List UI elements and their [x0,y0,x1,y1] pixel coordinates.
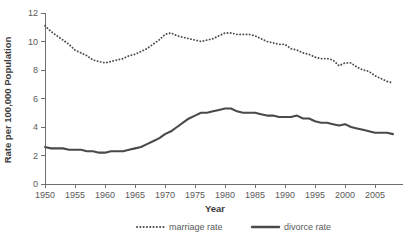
data-series-group [45,26,393,153]
y-tick-label: 2 [33,151,38,161]
x-tick-label: 1970 [155,190,175,200]
x-tick-label: 1965 [125,190,145,200]
x-tick-label: 1995 [305,190,325,200]
x-tick-label: 1985 [245,190,265,200]
y-axis-title: Rate per 100,000 Population [2,36,13,163]
x-tick-label: 1990 [275,190,295,200]
y-tick-label: 0 [33,179,38,189]
y-tick-label: 8 [33,65,38,75]
y-axis: 024681012 [28,8,45,189]
line-chart: 024681012 195019551960196519701975198019… [0,0,415,241]
series-line-marriage-rate [45,26,393,83]
x-tick-label: 1980 [215,190,235,200]
x-tick-label: 1955 [65,190,85,200]
y-tick-label: 12 [28,8,38,18]
x-tick-label: 2000 [335,190,355,200]
x-tick-label: 1975 [185,190,205,200]
y-tick-label: 4 [33,122,38,132]
x-tick-label: 2005 [365,190,385,200]
legend-label-divorce: divorce rate [284,222,331,232]
y-tick-label: 10 [28,37,38,47]
y-tick-label: 6 [33,94,38,104]
chart-legend: marriage ratedivorce rate [137,222,331,232]
chart-figure: 024681012 195019551960196519701975198019… [0,0,415,241]
x-axis: 1950195519601965197019751980198519901995… [35,184,403,200]
x-tick-label: 1950 [35,190,55,200]
legend-label-marriage: marriage rate [169,222,223,232]
x-tick-label: 1960 [95,190,115,200]
series-line-divorce-rate [45,108,393,152]
x-axis-title: Year [205,203,225,214]
